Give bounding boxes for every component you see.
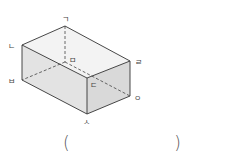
vertex-label-rieul: ㄹ [135,58,142,67]
vertex-label-ieung: ㅇ [134,94,141,103]
vertex-label-mieum: ㅁ [69,56,76,65]
diagram-canvas: ㄱ ㄴ ㅁ ㄹ ㅂ ㄷ ㅇ ㅅ ( ) [0,0,229,166]
vertex-label-siot: ㅅ [83,118,90,127]
vertex-label-digeut: ㄷ [90,81,97,90]
answer-blank[interactable]: ( ) [63,132,181,154]
open-paren: ( [63,133,70,153]
close-paren: ) [174,133,181,153]
vertex-label-nieun: ㄴ [8,42,15,51]
vertex-label-bieup: ㅂ [8,77,15,86]
vertex-label-giyeok: ㄱ [62,15,69,24]
